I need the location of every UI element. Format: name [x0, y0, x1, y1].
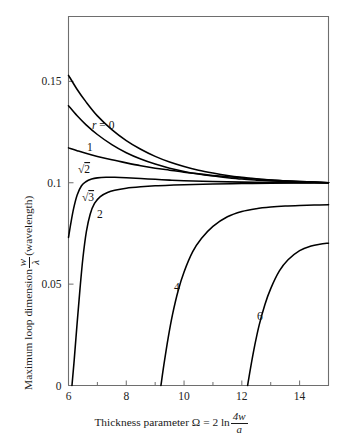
- curve-label: √3: [82, 191, 94, 203]
- y-axis-title: Maximum loop dimensionwλ(wavelength): [18, 10, 42, 390]
- curve-label: 1: [87, 141, 93, 153]
- y-tick-label: 0.1: [47, 177, 62, 189]
- y-axis-title-denominator: λ: [30, 257, 41, 268]
- y-axis-title-prefix: Maximum loop dimension: [22, 269, 34, 390]
- curve-label: 2: [97, 208, 103, 220]
- x-tick-label: 14: [294, 390, 306, 402]
- curve-1: [69, 106, 329, 183]
- curve-2: [72, 183, 329, 386]
- y-axis-title-suffix: (wavelength): [22, 196, 34, 256]
- plot-frame: [69, 17, 329, 386]
- x-axis-title-numerator: 4w: [231, 411, 248, 423]
- curve-label: √2: [78, 163, 90, 175]
- x-axis-title-denominator: a: [231, 424, 248, 435]
- x-tick-label: 8: [123, 390, 129, 402]
- curve-label: 4: [174, 281, 180, 293]
- y-axis-title-fraction: wλ: [17, 257, 41, 268]
- curve-label: 6: [257, 310, 263, 322]
- x-tick-label: 10: [178, 390, 190, 402]
- y-tick-label: 0.05: [41, 278, 61, 290]
- chart-svg: 68101214 00.050.10.15 r = 01√2√3246: [0, 0, 343, 443]
- curve-4: [161, 205, 329, 386]
- figure-container: 68101214 00.050.10.15 r = 01√2√3246 Thic…: [0, 0, 343, 443]
- x-axis-title-prefix: Thickness parameter Ω = 2 ln: [94, 416, 229, 428]
- y-axis-tick-labels: 00.050.10.15: [41, 75, 61, 391]
- curve-label: r = 0: [92, 119, 115, 131]
- x-axis-title: Thickness parameter Ω = 2 ln4wa: [0, 412, 343, 436]
- x-axis-tick-labels: 68101214: [66, 390, 306, 402]
- x-axis-ticks: [69, 381, 329, 386]
- y-axis-title-numerator: w: [17, 257, 29, 268]
- curve-3: [69, 177, 329, 237]
- y-tick-label: 0.15: [41, 75, 61, 87]
- y-tick-label: 0: [56, 380, 62, 392]
- curve-labels: r = 01√2√3246: [78, 119, 263, 322]
- x-axis-title-fraction: 4wa: [231, 411, 248, 435]
- x-tick-label: 6: [66, 390, 72, 402]
- x-tick-label: 12: [236, 390, 248, 402]
